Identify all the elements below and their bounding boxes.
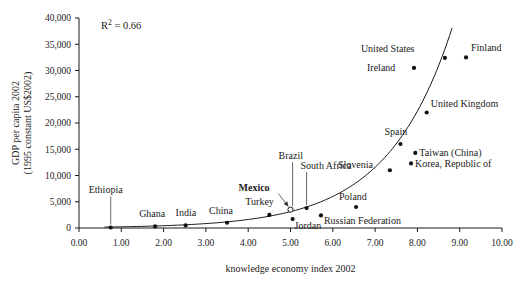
r-squared-annotation: R2 = 0.66 [101, 18, 141, 31]
marker-slovenia [388, 168, 392, 172]
x-tick-label: 5.00 [282, 238, 299, 248]
marker-korea-republic-of [409, 161, 413, 165]
point-label-mexico: Mexico [239, 182, 270, 193]
y-tick-label: 30,000 [45, 66, 71, 76]
data-points [109, 55, 469, 229]
y-tick-label: 25,000 [45, 92, 71, 102]
chart-figure: 05,00010,00015,00020,00025,00030,00035,0… [0, 0, 531, 284]
x-tick-label: 4.00 [240, 238, 257, 248]
y-tick-label: 35,000 [45, 40, 71, 50]
marker-india [183, 223, 187, 227]
point-label-turkey: Turkey [245, 196, 274, 207]
y-tick-label: 15,000 [45, 145, 71, 155]
marker-ethiopia [109, 225, 113, 229]
y-axis-title-line1: GDP per capita 2002 [10, 81, 21, 165]
point-label-poland: Poland [339, 191, 367, 202]
marker-ghana [153, 224, 157, 228]
x-tick-label: 9.00 [451, 238, 468, 248]
point-label-russian-federation: Russian Federation [324, 215, 401, 226]
marker-russian-federation [319, 213, 323, 217]
point-label-china: China [209, 205, 233, 216]
marker-spain [398, 142, 402, 146]
marker-turkey [267, 213, 271, 217]
point-label-brazil: Brazil [279, 150, 304, 161]
x-tick-label: 8.00 [409, 238, 426, 248]
y-tick-label: 20,000 [45, 118, 71, 128]
marker-ireland [412, 66, 416, 70]
marker-finland [464, 55, 468, 59]
y-tick-label: 40,000 [45, 13, 71, 23]
x-tick-label: 7.00 [367, 238, 384, 248]
y-tick-label: 5,000 [50, 197, 72, 207]
point-label-jordan: Jordan [295, 220, 322, 231]
x-axis-title: knowledge economy index 2002 [225, 263, 355, 274]
r-squared-text: R2 = 0.66 [101, 18, 141, 31]
point-label-spain: Spain [384, 126, 407, 137]
marker-taiwan-china [413, 151, 417, 155]
y-axis-title-line2: (1995 constant US$2002) [22, 72, 34, 175]
y-tick-label: 0 [66, 223, 71, 233]
axes: 05,00010,00015,00020,00025,00030,00035,0… [45, 13, 513, 248]
point-label-korea-republic-of: Korea, Republic of [415, 158, 492, 169]
point-label-slovenia: Slovenia [338, 159, 374, 170]
x-tick-label: 3.00 [198, 238, 215, 248]
scatter-plot: 05,00010,00015,00020,00025,00030,00035,0… [0, 0, 531, 284]
x-tick-label: 0.00 [71, 238, 88, 248]
x-tick-label: 2.00 [155, 238, 172, 248]
x-tick-label: 1.00 [113, 238, 130, 248]
x-tick-label: 6.00 [324, 238, 341, 248]
marker-china [225, 221, 229, 225]
marker-south-africa [304, 206, 308, 210]
data-point-labels: EthiopiaGhanaIndiaChinaTurkeyMexicoBrazi… [89, 42, 502, 231]
point-label-united-kingdom: United Kingdom [431, 98, 499, 109]
point-label-india: India [176, 207, 197, 218]
point-label-united-states: United States [361, 43, 415, 54]
x-tick-label: 10.00 [491, 238, 513, 248]
point-label-taiwan-china: Taiwan (China) [419, 147, 481, 159]
point-label-ireland: Ireland [367, 62, 395, 73]
y-tick-label: 10,000 [45, 171, 71, 181]
marker-mexico [288, 207, 293, 212]
marker-poland [354, 205, 358, 209]
point-label-ghana: Ghana [139, 208, 166, 219]
point-label-finland: Finland [471, 42, 502, 53]
marker-united-kingdom [425, 110, 429, 114]
point-label-ethiopia: Ethiopia [89, 184, 123, 195]
marker-united-states [443, 56, 447, 60]
